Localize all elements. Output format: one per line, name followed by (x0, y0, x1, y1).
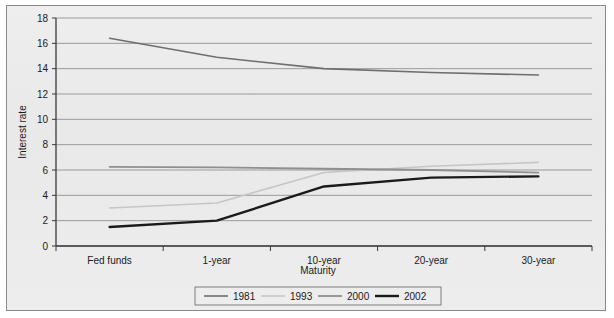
y-axis-tick-label: 8 (42, 139, 48, 150)
y-axis-tick-label: 14 (37, 63, 49, 74)
legend-label-2002: 2002 (404, 291, 427, 302)
x-axis-tick-label: Fed funds (87, 255, 131, 266)
series-line-2002 (110, 176, 539, 227)
y-axis-tick-label: 0 (42, 241, 48, 252)
x-axis-ticks-group (56, 246, 592, 251)
y-axis-tick-label: 6 (42, 165, 48, 176)
gridlines-group (56, 18, 592, 246)
y-axis-tick-labels-group: 024681012141618 (37, 13, 49, 252)
axis-titles-group: Interest rate Maturity (17, 105, 336, 276)
y-axis-tick-label: 4 (42, 190, 48, 201)
axis-lines-group (56, 18, 592, 246)
y-axis-title: Interest rate (17, 105, 28, 159)
x-axis-tick-label: 30-year (521, 255, 556, 266)
y-axis-tick-label: 18 (37, 13, 49, 24)
legend: 1981199320002002 (195, 287, 441, 305)
y-axis-tick-label: 10 (37, 114, 49, 125)
x-axis-title: Maturity (300, 265, 336, 276)
chart-page: 024681012141618 Fed funds1-year10-year20… (0, 0, 614, 318)
x-axis-tick-label: 1-year (203, 255, 232, 266)
legend-label-1993: 1993 (290, 291, 313, 302)
x-axis-tick-label: 20-year (414, 255, 449, 266)
y-axis-tick-label: 12 (37, 89, 49, 100)
y-axis-tick-label: 16 (37, 38, 49, 49)
legend-label-2000: 2000 (347, 291, 370, 302)
legend-label-1981: 1981 (233, 291, 256, 302)
y-axis-tick-label: 2 (42, 215, 48, 226)
line-chart: 024681012141618 Fed funds1-year10-year20… (0, 0, 614, 318)
data-series-group (110, 38, 539, 227)
